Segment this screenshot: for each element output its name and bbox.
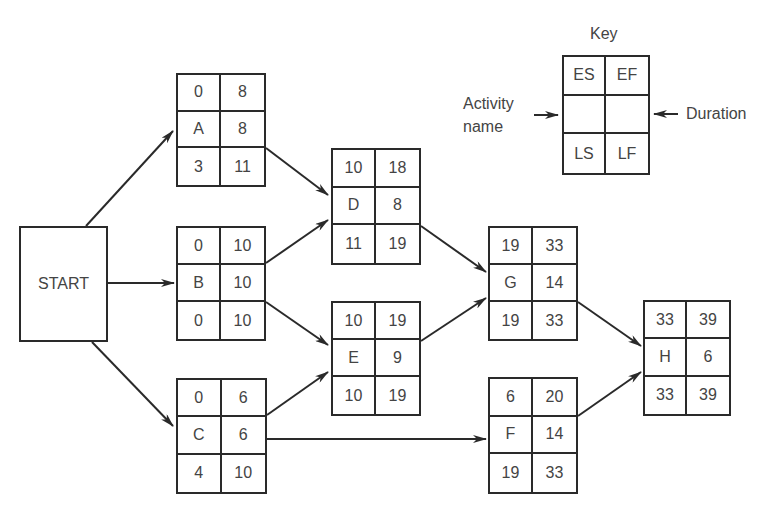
edge-e-g [421,298,486,341]
duration: 14 [533,265,576,302]
lf: 11 [221,148,264,185]
activity-name: E [333,340,376,377]
activity-node-c: 0 6 C 6 4 10 [176,378,267,494]
duration: 8 [221,112,264,149]
ls: 19 [490,454,533,492]
es: 19 [490,228,533,265]
ls: 19 [490,302,533,339]
edge-start-c [92,342,173,426]
key-lf: LF [606,134,648,173]
key-activity-name [564,96,606,135]
ls: 11 [333,225,376,263]
edge-start-a [86,131,173,226]
ls: 10 [333,377,376,414]
activity-node-f: 6 20 F 14 19 33 [488,377,578,494]
key-activity-label-1: Activity [463,94,514,114]
key-activity-label-2: name [463,117,503,137]
lf: 10 [221,302,264,339]
es: 10 [333,150,376,188]
start-label: START [38,275,89,293]
es: 10 [333,303,376,340]
activity-node-d: 10 18 D 8 11 19 [331,148,421,265]
key-ef: EF [606,57,648,96]
ef: 20 [533,379,576,417]
activity-node-g: 19 33 G 14 19 33 [488,226,578,341]
es: 0 [178,228,221,265]
activity-name: A [178,112,221,149]
duration: 10 [221,265,264,302]
lf: 19 [376,225,419,263]
ef: 39 [687,302,729,339]
activity-name: H [645,339,687,376]
ls: 3 [178,148,221,185]
activity-node-a: 0 8 A 8 3 11 [176,73,266,187]
key-duration-label: Duration [686,104,746,124]
start-node: START [19,226,108,342]
activity-node-h: 33 39 H 6 33 39 [643,300,731,416]
ef: 6 [222,380,266,417]
lf: 19 [376,377,419,414]
key-title: Key [590,24,618,44]
edge-g-h [578,302,641,346]
ls: 4 [178,455,222,492]
es: 6 [490,379,533,417]
es: 0 [178,75,221,112]
edge-c-e [267,372,328,415]
es: 33 [645,302,687,339]
activity-name: G [490,265,533,302]
ef: 10 [221,228,264,265]
duration: 8 [376,188,419,226]
activity-node-b: 0 10 B 10 0 10 [176,226,266,341]
ef: 8 [221,75,264,112]
key-box: ES EF LS LF [562,55,650,175]
lf: 33 [533,454,576,492]
ls: 0 [178,302,221,339]
activity-name: B [178,265,221,302]
duration: 14 [533,417,576,455]
ef: 33 [533,228,576,265]
activity-node-e: 10 19 E 9 10 19 [331,301,421,416]
edge-f-h [578,372,641,416]
ef: 19 [376,303,419,340]
duration: 6 [687,339,729,376]
key-ls: LS [564,134,606,173]
activity-name: C [178,417,222,454]
edge-b-d [266,220,328,263]
duration: 6 [222,417,266,454]
activity-name: D [333,188,376,226]
activity-name: F [490,417,533,455]
edge-b-e [266,302,328,345]
key-es: ES [564,57,606,96]
lf: 33 [533,302,576,339]
edge-d-g [421,226,486,272]
ls: 33 [645,377,687,414]
lf: 39 [687,377,729,414]
es: 0 [178,380,222,417]
edge-a-d [266,148,328,195]
duration: 9 [376,340,419,377]
ef: 18 [376,150,419,188]
lf: 10 [222,455,266,492]
key-duration [606,96,648,135]
